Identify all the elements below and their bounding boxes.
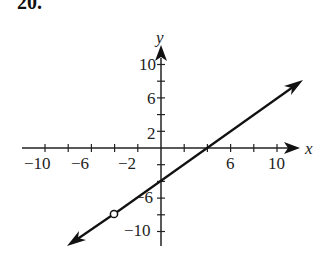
y-tick-label-6: 6 [147, 89, 156, 108]
y-tick-label-2: 2 [147, 124, 156, 143]
graph-line-upper-segment [117, 87, 293, 212]
graph-line-lower-segment [76, 216, 111, 240]
coordinate-plane: x y −10 −6 −2 6 10 10 6 2 −6 −10 [0, 0, 321, 255]
y-axis-label: y [154, 28, 164, 47]
x-tick-label-neg6: −6 [71, 154, 89, 173]
open-circle-point [110, 210, 117, 217]
x-tick-label-neg2: −2 [118, 154, 136, 173]
x-axis-label: x [304, 139, 313, 158]
x-tick-label-10: 10 [268, 154, 285, 173]
x-tick-label-6: 6 [226, 154, 235, 173]
y-tick-label-neg10: −10 [124, 221, 151, 240]
line-arrow-lower-icon [67, 231, 86, 246]
line-arrow-upper-icon [284, 80, 303, 95]
x-tick-label-neg10: −10 [24, 154, 51, 173]
y-tick-label-10: 10 [139, 55, 156, 74]
